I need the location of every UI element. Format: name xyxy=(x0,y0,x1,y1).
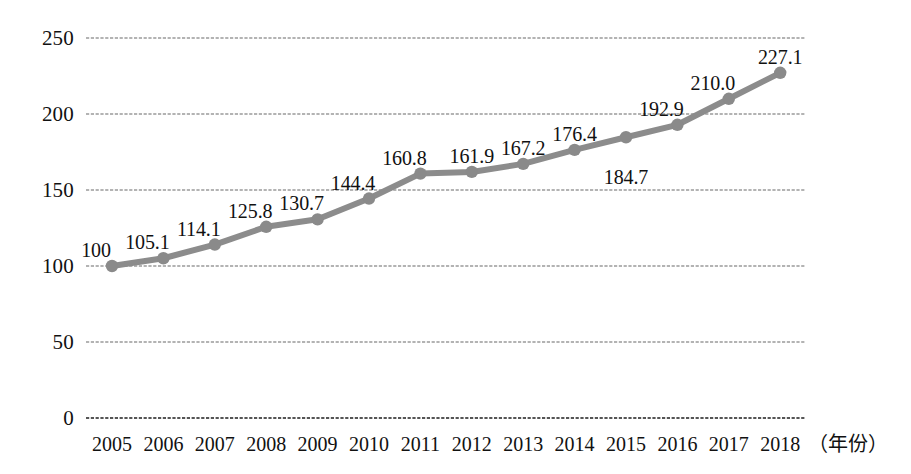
data-point-marker xyxy=(106,260,118,272)
x-axis-tick-label: 2006 xyxy=(143,434,183,454)
data-point-marker xyxy=(517,158,529,170)
x-axis-tick-label: 2013 xyxy=(503,434,543,454)
data-point-marker xyxy=(363,192,375,204)
data-point-label: 227.1 xyxy=(758,47,803,67)
x-axis-tick-label: 2015 xyxy=(606,434,646,454)
y-axis-tick-label: 250 xyxy=(42,28,74,49)
data-point-marker xyxy=(671,119,683,131)
x-axis-tick-label: 2010 xyxy=(349,434,389,454)
x-axis-tick-label: 2005 xyxy=(92,434,132,454)
data-point-marker xyxy=(209,238,221,250)
x-axis-tick-label: 2016 xyxy=(657,434,697,454)
x-axis-tick-label: 2014 xyxy=(555,434,595,454)
data-markers xyxy=(106,67,787,273)
data-point-label: 144.4 xyxy=(331,173,376,193)
data-point-label: 167.2 xyxy=(501,138,546,158)
data-point-marker xyxy=(311,213,323,225)
data-point-label: 210.0 xyxy=(691,73,736,93)
data-point-marker xyxy=(568,144,580,156)
x-axis-tick-label: 2011 xyxy=(401,434,440,454)
y-axis-tick-label: 0 xyxy=(63,408,74,429)
y-axis-tick-label: 150 xyxy=(42,180,74,201)
data-point-label: 192.9 xyxy=(639,99,684,119)
data-point-marker xyxy=(723,93,735,105)
data-point-label: 105.1 xyxy=(125,232,170,252)
data-point-label: 161.9 xyxy=(450,146,495,166)
data-point-marker xyxy=(414,167,426,179)
x-axis-tick-label: 2012 xyxy=(452,434,492,454)
y-axis-tick-label: 50 xyxy=(53,332,74,353)
y-axis-tick-label: 200 xyxy=(42,104,74,125)
data-point-marker xyxy=(466,166,478,178)
x-axis-tick-label: 2007 xyxy=(195,434,235,454)
data-point-label: 125.8 xyxy=(228,201,273,221)
data-point-label: 176.4 xyxy=(552,124,597,144)
data-point-label: 114.1 xyxy=(177,219,221,239)
x-axis-unit-label: （年份） xyxy=(808,434,888,454)
data-point-marker xyxy=(620,131,632,143)
chart-container: 050100150200250 200520062007200820092010… xyxy=(0,0,911,474)
data-point-label: 184.7 xyxy=(604,167,649,187)
x-axis-tick-label: 2008 xyxy=(246,434,286,454)
data-point-label: 130.7 xyxy=(279,193,324,213)
data-point-label: 160.8 xyxy=(382,148,427,168)
data-point-marker xyxy=(157,252,169,264)
x-axis-tick-label: 2017 xyxy=(709,434,749,454)
x-axis-tick-label: 2018 xyxy=(760,434,800,454)
x-axis-tick-label: 2009 xyxy=(298,434,338,454)
data-point-marker xyxy=(260,221,272,233)
data-point-label: 100 xyxy=(81,240,111,260)
data-point-marker xyxy=(774,67,786,79)
y-axis-tick-label: 100 xyxy=(42,256,74,277)
